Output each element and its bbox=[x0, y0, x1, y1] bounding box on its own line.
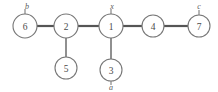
node-1[interactable]: 1 bbox=[99, 14, 123, 38]
node-4-label: 4 bbox=[151, 22, 156, 32]
terminal-label-a: a bbox=[109, 83, 113, 92]
diagram-canvas: 6 2 1 4 7 5 3 b x c a bbox=[0, 0, 218, 92]
terminal-label-x: x bbox=[109, 2, 114, 11]
node-5[interactable]: 5 bbox=[55, 57, 77, 79]
node-7-label: 7 bbox=[197, 22, 202, 32]
node-3-label: 3 bbox=[109, 66, 114, 76]
terminal-label-b: b bbox=[25, 2, 29, 11]
graph-svg: 6 2 1 4 7 5 3 b x c a bbox=[0, 0, 218, 92]
terminal-label-c: c bbox=[197, 2, 201, 11]
node-5-label: 5 bbox=[64, 64, 69, 74]
node-6-label: 6 bbox=[23, 22, 28, 32]
node-7[interactable]: 7 bbox=[188, 15, 210, 37]
node-2[interactable]: 2 bbox=[54, 14, 78, 38]
node-4[interactable]: 4 bbox=[142, 15, 164, 37]
node-6[interactable]: 6 bbox=[13, 14, 37, 38]
node-2-label: 2 bbox=[64, 22, 69, 32]
node-3[interactable]: 3 bbox=[100, 59, 122, 81]
node-1-label: 1 bbox=[109, 22, 114, 32]
